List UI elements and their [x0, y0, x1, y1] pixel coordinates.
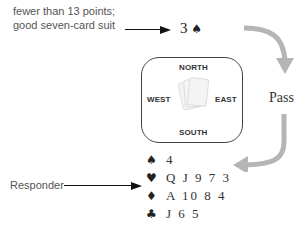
responder-pointer-arrowhead-icon [131, 182, 142, 190]
club-cards: J 6 5 [166, 206, 201, 221]
responder-label: Responder [10, 178, 64, 192]
opener-pointer-arrowhead-icon [160, 26, 171, 34]
hand-row-spades: ♠4 [146, 151, 231, 169]
opener-note-line2: good seven-card suit [13, 18, 115, 32]
responder-pointer-line [64, 185, 134, 186]
heart-icon: ♥ [146, 170, 166, 187]
spade-icon: ♠ [191, 22, 202, 36]
opener-note: fewer than 13 points; good seven-card su… [13, 4, 115, 32]
heart-cards: Q J 9 7 3 [166, 170, 231, 185]
spade-icon: ♠ [146, 152, 166, 169]
flow-arrow-to-south-icon [230, 112, 290, 172]
bid-level: 3 [180, 20, 188, 36]
diamond-cards: A 10 8 4 [166, 188, 226, 203]
opener-pointer-line [125, 29, 163, 30]
hand-row-clubs: ♣J 6 5 [146, 205, 231, 223]
west-label: WEST [147, 95, 171, 104]
east-call: Pass [269, 90, 294, 106]
club-icon: ♣ [146, 206, 166, 223]
flow-arrow-to-east-icon [240, 22, 300, 82]
bridge-table: NORTH SOUTH WEST EAST [141, 57, 243, 143]
opening-bid: 3 ♠ [180, 20, 202, 37]
north-label: NORTH [179, 63, 208, 72]
card-deck-icon [180, 78, 204, 110]
responder-hand: ♠4 ♥Q J 9 7 3 ♦A 10 8 4 ♣J 6 5 [146, 151, 231, 223]
opener-note-line1: fewer than 13 points; [13, 4, 115, 18]
hand-row-hearts: ♥Q J 9 7 3 [146, 169, 231, 187]
diamond-icon: ♦ [146, 188, 166, 205]
south-label: SOUTH [179, 128, 208, 137]
spade-cards: 4 [166, 152, 175, 167]
east-label: EAST [215, 95, 237, 104]
hand-row-diamonds: ♦A 10 8 4 [146, 187, 231, 205]
